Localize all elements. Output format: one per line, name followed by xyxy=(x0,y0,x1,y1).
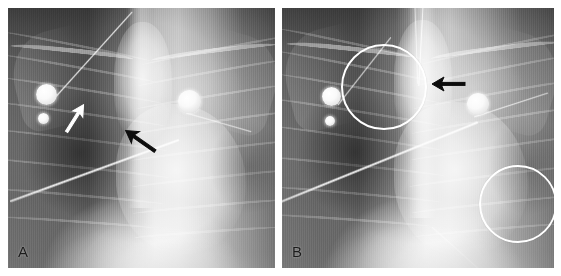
xray-image-b xyxy=(282,8,554,268)
radiograph-panel-b[interactable]: B xyxy=(282,8,554,268)
xray-image-a xyxy=(8,8,275,268)
black-arrow xyxy=(430,66,470,102)
circled-region-upper-right-lung xyxy=(341,44,427,130)
circled-region-lower-left-lung xyxy=(479,165,554,243)
radiograph-panel-a[interactable]: A xyxy=(8,8,275,268)
panel-label-a: A xyxy=(18,243,29,260)
panel-label-b: B xyxy=(292,243,303,260)
radiograph-figure: A xyxy=(0,0,561,276)
